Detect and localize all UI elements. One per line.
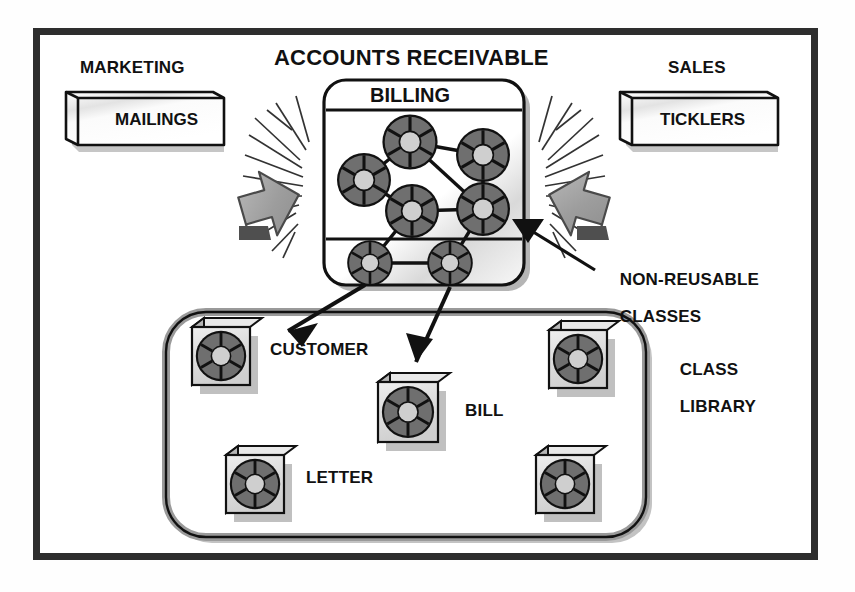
class-library-line-2: LIBRARY	[680, 397, 756, 416]
class-label-bill: BILL	[465, 402, 504, 420]
billing-node-n5	[456, 182, 510, 236]
billing-node-n2	[456, 128, 510, 182]
billing-node-n7	[427, 240, 473, 286]
impact-arrow-left	[233, 96, 309, 258]
billing-title: BILLING	[370, 84, 450, 107]
billing-node-n1	[382, 114, 437, 169]
marketing-title: MARKETING	[80, 59, 185, 77]
non-reusable-line-1: NON-REUSABLE	[620, 270, 759, 289]
class-library-line-1: CLASS	[680, 360, 739, 379]
marketing-slab-label: MAILINGS	[115, 110, 198, 130]
page-title-accounts-receivable: ACCOUNTS RECEIVABLE	[274, 46, 549, 70]
non-reusable-classes-label: NON-REUSABLE CLASSES	[600, 253, 759, 345]
sales-title: SALES	[668, 59, 726, 77]
billing-node-n6	[347, 240, 393, 286]
impact-arrow-right	[539, 96, 615, 258]
diagram-canvas: ACCOUNTS RECEIVABLE MARKETING MAILINGS S…	[0, 0, 855, 592]
billing-system[interactable]	[324, 80, 530, 291]
class-label-customer: CUSTOMER	[270, 341, 369, 359]
class-label-letter: LETTER	[306, 469, 373, 487]
billing-node-n3	[337, 153, 391, 207]
billing-node-n4	[385, 184, 439, 238]
sales-slab-label: TICKLERS	[660, 110, 745, 130]
non-reusable-line-2: CLASSES	[620, 307, 702, 326]
class-library-label: CLASS LIBRARY	[660, 343, 756, 435]
